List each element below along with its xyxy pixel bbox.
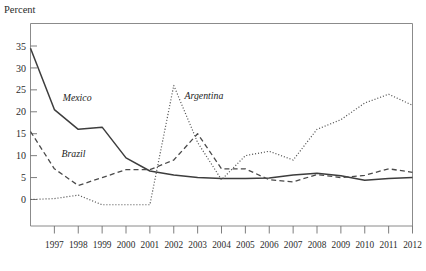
y-tick-label: 10 [16,150,26,161]
x-tick-label: 2001 [141,240,160,250]
x-tick-label: 1997 [45,240,64,250]
line-chart-canvas: Percent051015202530351997199819992000200… [0,0,426,271]
series-line-argentina [31,85,413,204]
series-label-argentina: Argentina [183,90,223,101]
y-tick-label: 20 [16,106,26,117]
y-tick-label: 0 [21,194,26,205]
x-tick-label: 2010 [355,240,374,250]
y-tick-label: 5 [21,172,26,183]
x-tick-label: 2006 [260,240,279,250]
x-tick-label: 1998 [69,240,88,250]
x-tick-label: 2008 [308,240,327,250]
y-tick-label: 15 [16,128,26,139]
y-tick-label: 30 [16,63,26,74]
x-tick-label: 2007 [284,240,303,250]
x-tick-label: 2000 [117,240,136,250]
y-tick-label: 35 [16,41,26,52]
series-line-mexico [31,48,413,180]
y-axis-ticks: 05101520253035 [16,41,37,206]
series-label-mexico: Mexico [62,92,92,103]
x-tick-label: 2005 [236,240,255,250]
x-tick-label: 2011 [380,240,399,250]
x-tick-label: 2009 [332,240,351,250]
series-label-brazil: Brazil [62,148,86,159]
y-axis-title: Percent [4,4,36,15]
x-tick-label: 2003 [188,240,207,250]
x-tick-label: 2012 [403,240,422,250]
y-tick-label: 25 [16,84,26,95]
series-line-brazil [31,132,413,186]
x-tick-label: 1999 [93,240,112,250]
x-tick-label: 2004 [212,240,231,250]
x-axis-ticks: 1997199819992000200120022003200420052006… [45,226,422,250]
chart-figure: Percent051015202530351997199819992000200… [0,0,426,271]
x-tick-label: 2002 [164,240,183,250]
